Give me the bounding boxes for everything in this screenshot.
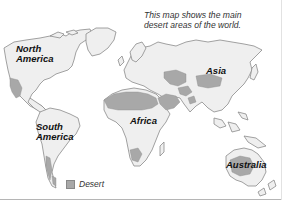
- caption-line-1: This map shows the main: [144, 10, 284, 20]
- label-africa: Africa: [130, 116, 157, 126]
- world-map-graphic: [0, 0, 284, 205]
- desert-legend-label: Desert: [79, 179, 104, 189]
- label-asia: Asia: [206, 66, 226, 76]
- new-guinea-island: [244, 136, 266, 148]
- label-north-america-line-2: America: [16, 54, 54, 64]
- right-divider: [281, 0, 282, 200]
- label-south-america-line-2: America: [36, 132, 74, 142]
- new-zealand-islands: [258, 180, 276, 196]
- map-legend: Desert: [66, 179, 104, 189]
- caption-line-2: desert areas of the world.: [144, 20, 284, 30]
- world-desert-map: This map shows the main desert areas of …: [0, 0, 284, 205]
- greenland-landmass: [86, 28, 116, 56]
- desert-legend-swatch: [66, 180, 75, 189]
- north-america-landmass: [4, 29, 92, 112]
- label-south-america: South America: [36, 122, 74, 142]
- southeast-asia-islands: [214, 112, 248, 132]
- madagascar-island: [160, 142, 164, 156]
- map-caption: This map shows the main desert areas of …: [144, 10, 284, 30]
- label-australia: Australia: [226, 160, 267, 170]
- bottom-divider: [0, 199, 282, 200]
- south-america-landmass: [36, 108, 80, 188]
- label-north-america: North America: [16, 44, 54, 64]
- british-isles: [118, 56, 124, 66]
